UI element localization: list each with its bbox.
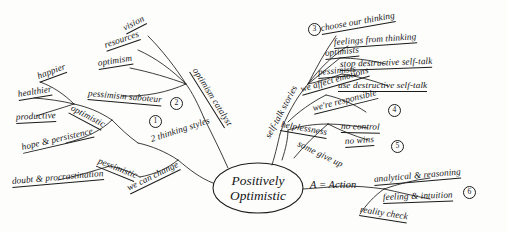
center-node-line-1: Positively bbox=[232, 173, 285, 189]
branch-number-6: 6 bbox=[463, 186, 476, 199]
branch-number-1: 1 bbox=[149, 115, 162, 128]
branch-number-2: 2 bbox=[170, 97, 183, 110]
line-thinking-styles bbox=[138, 143, 178, 160]
center-node[interactable]: Positively Optimistic bbox=[213, 163, 303, 213]
line-vision bbox=[148, 36, 186, 84]
node-productive[interactable]: productive bbox=[16, 111, 56, 124]
branch-number-3: 3 bbox=[308, 23, 321, 36]
node-use-destructive-self-talk[interactable]: use destructive self-talk bbox=[338, 81, 427, 92]
branch-number-5: 5 bbox=[391, 140, 404, 153]
line-resources bbox=[138, 50, 186, 84]
node-no-control[interactable]: no control bbox=[341, 122, 380, 133]
mindmap-canvas: Positively Optimistic vision resources o… bbox=[0, 0, 507, 232]
node-no-wins[interactable]: no wins bbox=[345, 135, 375, 148]
branch-number-4: 4 bbox=[388, 104, 401, 117]
center-node-line-2: Optimistic bbox=[230, 188, 286, 204]
line-to-optimistic-hub bbox=[112, 120, 138, 143]
node-a-equals-action[interactable]: A = Action bbox=[310, 180, 356, 190]
line-center-to-helplessness bbox=[282, 130, 288, 160]
line-center-to-selftalk bbox=[272, 134, 280, 165]
line-center-to-thinking-styles bbox=[178, 160, 213, 183]
